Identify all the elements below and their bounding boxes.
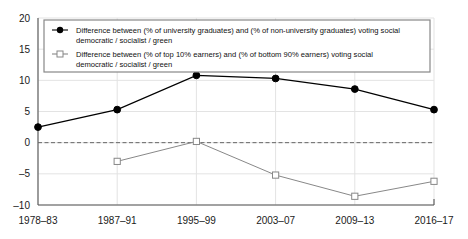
data-point-filled-circle bbox=[193, 72, 200, 79]
y-tick-label: –5 bbox=[19, 168, 31, 179]
data-point-filled-circle bbox=[431, 106, 438, 113]
y-tick-label: –10 bbox=[13, 200, 30, 211]
x-tick-label: 1995–99 bbox=[177, 215, 216, 226]
data-point-filled-circle bbox=[114, 106, 121, 113]
series-line bbox=[38, 75, 434, 127]
legend-label-line2: democratic / socialist / green bbox=[76, 60, 172, 69]
data-point-open-square bbox=[352, 193, 358, 199]
x-tick-label: 2009–13 bbox=[335, 215, 374, 226]
chart-legend: Difference between (% of university grad… bbox=[44, 20, 430, 72]
x-tick-label: 2016–17 bbox=[415, 215, 454, 226]
y-axis-tick-labels: 20151050–5–10 bbox=[13, 13, 30, 211]
line-chart: 20151050–5–10 1978–831987–911995–992003–… bbox=[0, 0, 468, 239]
legend-label-line1: Difference between (% of university grad… bbox=[76, 26, 400, 35]
legend-filled-circle-marker bbox=[57, 27, 63, 33]
legend-open-square-marker bbox=[57, 51, 63, 57]
x-tick-label: 1987–91 bbox=[98, 215, 137, 226]
legend-label-line1: Difference between (% of top 10% earners… bbox=[76, 50, 373, 59]
data-point-open-square bbox=[193, 138, 199, 144]
data-point-filled-circle bbox=[35, 124, 42, 131]
y-tick-label: 0 bbox=[24, 137, 30, 148]
data-point-filled-circle bbox=[272, 75, 279, 82]
legend-label-line2: democratic / socialist / green bbox=[76, 36, 172, 45]
data-point-filled-circle bbox=[351, 86, 358, 93]
y-tick-label: 10 bbox=[19, 75, 31, 86]
data-point-open-square bbox=[114, 158, 120, 164]
chart-container: 20151050–5–10 1978–831987–911995–992003–… bbox=[0, 0, 468, 239]
x-tick-label: 2003–07 bbox=[256, 215, 295, 226]
data-point-open-square bbox=[431, 178, 437, 184]
x-tick-label: 1978–83 bbox=[19, 215, 58, 226]
y-tick-label: 5 bbox=[24, 106, 30, 117]
y-tick-label: 20 bbox=[19, 13, 31, 24]
y-tick-label: 15 bbox=[19, 44, 31, 55]
data-point-open-square bbox=[273, 172, 279, 178]
x-axis-tick-labels: 1978–831987–911995–992003–072009–132016–… bbox=[19, 215, 454, 226]
data-series-group bbox=[35, 72, 438, 199]
